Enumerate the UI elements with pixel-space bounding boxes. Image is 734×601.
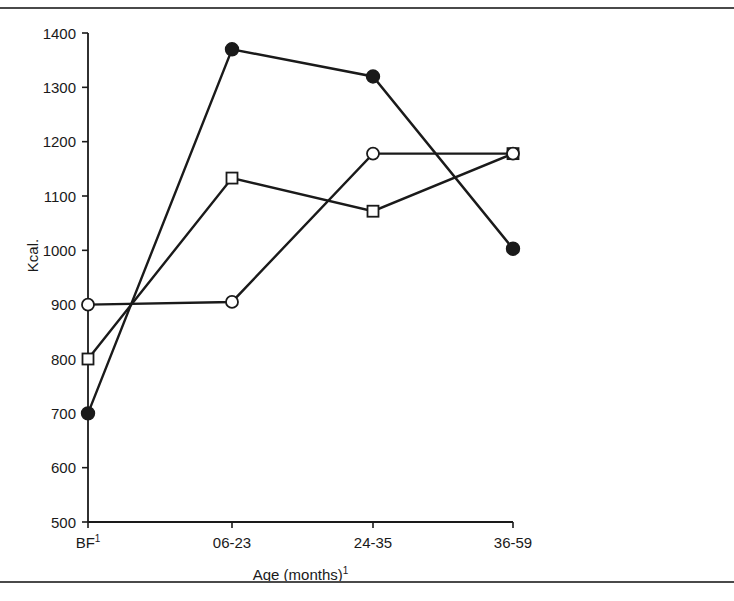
data-point-filled-circle xyxy=(507,242,520,255)
data-point-open-square xyxy=(83,354,94,365)
x-tick-label: BF1 xyxy=(76,533,101,551)
data-point-open-square xyxy=(227,173,238,184)
data-point-open-circle xyxy=(367,148,379,160)
data-point-filled-circle xyxy=(226,43,239,56)
x-tick-label: 06-23 xyxy=(213,534,251,551)
y-tick-label: 1300 xyxy=(43,79,76,96)
x-tick-label: 36-59 xyxy=(494,534,532,551)
bottom-divider-rule xyxy=(0,581,734,583)
y-tick-label: 900 xyxy=(51,296,76,313)
y-tick-label: 800 xyxy=(51,351,76,368)
line-chart: 50060070080090010001100120013001400 BF10… xyxy=(0,0,734,601)
y-tick-label: 1000 xyxy=(43,242,76,259)
series-line-open-square-series xyxy=(88,154,513,359)
y-axis-title: Kcal. xyxy=(24,239,41,272)
y-tick-label: 600 xyxy=(51,459,76,476)
x-tick-label: 24-35 xyxy=(354,534,392,551)
data-point-open-square xyxy=(368,206,379,217)
y-tick-label: 1200 xyxy=(43,133,76,150)
x-axis: BF106-2324-3536-59 xyxy=(76,522,533,551)
data-point-open-circle xyxy=(226,296,238,308)
top-divider-rule xyxy=(0,7,734,9)
y-tick-label: 700 xyxy=(51,405,76,422)
data-point-filled-circle xyxy=(82,407,95,420)
y-tick-label: 1400 xyxy=(43,25,76,42)
series-line-open-circle-series xyxy=(88,154,513,305)
data-series-group xyxy=(82,43,520,420)
data-point-open-circle xyxy=(507,148,519,160)
data-point-filled-circle xyxy=(367,70,380,83)
data-point-open-circle xyxy=(82,299,94,311)
y-axis: 50060070080090010001100120013001400 xyxy=(43,25,88,531)
figure-container: 50060070080090010001100120013001400 BF10… xyxy=(0,0,734,601)
y-tick-label: 1100 xyxy=(44,188,76,205)
y-tick-label: 500 xyxy=(51,514,76,531)
